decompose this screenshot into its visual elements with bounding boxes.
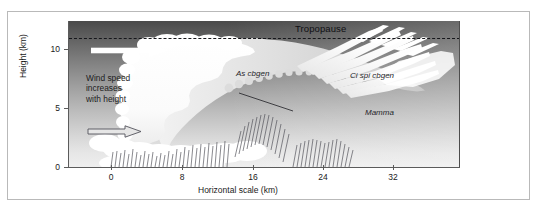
- arrow-right-filled-icon: [91, 44, 169, 57]
- x-tick-0: [111, 165, 112, 170]
- y-tick-label-0: 0: [38, 162, 60, 172]
- y-tick-0: [64, 167, 69, 168]
- x-tick-label-0: 0: [99, 172, 123, 182]
- y-tick-5: [64, 108, 69, 109]
- x-tick-8: [182, 165, 183, 170]
- tropopause-line: [69, 38, 460, 39]
- x-axis-title: Horizontal scale (km): [198, 185, 278, 195]
- figure-root: Tropopause Wind speed increases with hei…: [0, 0, 538, 213]
- label-as-cbgen: As cbgen: [236, 69, 269, 78]
- x-tick-label-24: 24: [311, 172, 335, 182]
- x-tick-32: [393, 165, 394, 170]
- y-axis-line: [68, 21, 69, 168]
- wind-note-line-3: with height: [86, 94, 130, 104]
- tropopause-label: Tropopause: [295, 23, 346, 34]
- x-tick-label-8: 8: [170, 172, 194, 182]
- label-ci-spi-cbgen: Ci spi cbgen: [350, 71, 394, 80]
- wind-speed-note: Wind speed increases with height: [86, 73, 130, 104]
- y-tick-10: [64, 49, 69, 50]
- arrow-right-outline-icon: [87, 125, 142, 138]
- y-tick-label-5: 5: [38, 103, 60, 113]
- label-mamma: Mamma: [365, 108, 394, 117]
- atmosphere-panel: Tropopause Wind speed increases with hei…: [69, 21, 460, 168]
- x-tick-label-32: 32: [381, 172, 405, 182]
- y-axis-title: Height (km): [18, 34, 28, 78]
- x-tick-16: [253, 165, 254, 170]
- x-tick-24: [323, 165, 324, 170]
- x-axis-line: [68, 167, 460, 168]
- wind-note-line-2: increases: [86, 83, 130, 93]
- wind-note-line-1: Wind speed: [86, 73, 130, 83]
- x-tick-label-16: 16: [241, 172, 265, 182]
- y-tick-label-10: 10: [38, 44, 60, 54]
